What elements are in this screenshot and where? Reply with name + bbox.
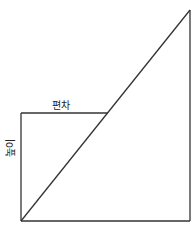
deviation-label: 편차 <box>52 97 70 112</box>
hypotenuse-diagonal <box>21 10 190 221</box>
height-label: 높이 <box>2 139 17 157</box>
diagram-canvas <box>0 0 195 240</box>
